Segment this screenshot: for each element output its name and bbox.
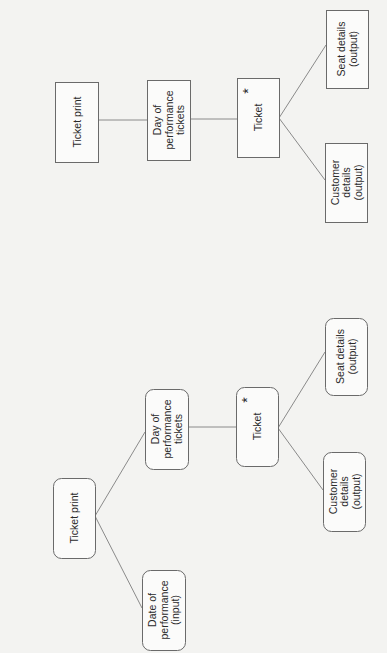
node-label: details (340, 167, 352, 197)
connector-ticket-to-customer-details (279, 118, 325, 180)
node-label: Date of (146, 593, 158, 627)
node-label: Ticket (252, 104, 264, 132)
node-label: Ticket print (71, 96, 83, 147)
node-ticket-print: Ticket print (56, 83, 99, 163)
node-label: (output) (352, 164, 364, 200)
connector-ticket-to-seat-details (278, 352, 325, 428)
node-seat-details: Seat details(output) (326, 319, 368, 396)
node-day-of-performance-tickets: Day ofperformancetickets (146, 390, 189, 470)
node-label: performance (163, 90, 175, 149)
node-label: Day of (149, 414, 161, 444)
node-ticket-print: Ticket print (54, 479, 96, 559)
node-label: Customer (329, 159, 341, 205)
node-label: Seat details (334, 329, 346, 384)
node-label: Day of (151, 105, 163, 135)
node-label: Customer (327, 468, 339, 514)
node-label: details (338, 476, 350, 506)
node-label: Ticket (251, 413, 263, 441)
node-label: tickets (172, 414, 184, 444)
node-label: Ticket print (68, 492, 80, 543)
node-label: performance (161, 399, 173, 458)
node-label: (output) (347, 31, 359, 67)
node-label: performance (158, 580, 170, 639)
node-label: tickets (174, 105, 186, 135)
connector-ticket-to-seat-details (279, 45, 326, 118)
node-ticket: Ticket* (238, 79, 280, 158)
connector-ticket-print-to-date-of-performance (95, 516, 142, 608)
iteration-asterisk-icon: * (240, 88, 256, 94)
node-date-of-performance: Date ofperformance(input) (143, 571, 186, 651)
node-day-of-performance-tickets: Day ofperformancetickets (148, 81, 191, 161)
node-label: (output) (346, 338, 358, 374)
connector-ticket-print-to-day-of-performance-tickets (95, 432, 145, 516)
node-seat-details: Seat details(output) (327, 11, 369, 89)
node-customer-details: Customerdetails(output) (324, 453, 366, 532)
node-ticket: Ticket* (237, 388, 279, 467)
logical-structure-diagram: Ticket printDate ofperformance(input)Day… (54, 319, 368, 651)
iteration-asterisk-icon: * (239, 397, 255, 403)
physical-structure-diagram: Ticket printDay ofperformanceticketsTick… (56, 11, 369, 223)
node-label: (output) (350, 473, 362, 509)
connector-ticket-to-customer-details (278, 428, 323, 490)
node-label: (input) (169, 595, 181, 625)
structure-diagrams: Ticket printDay ofperformanceticketsTick… (0, 0, 387, 653)
node-label: Seat details (335, 22, 347, 77)
node-customer-details: Customerdetails(output) (326, 144, 368, 223)
